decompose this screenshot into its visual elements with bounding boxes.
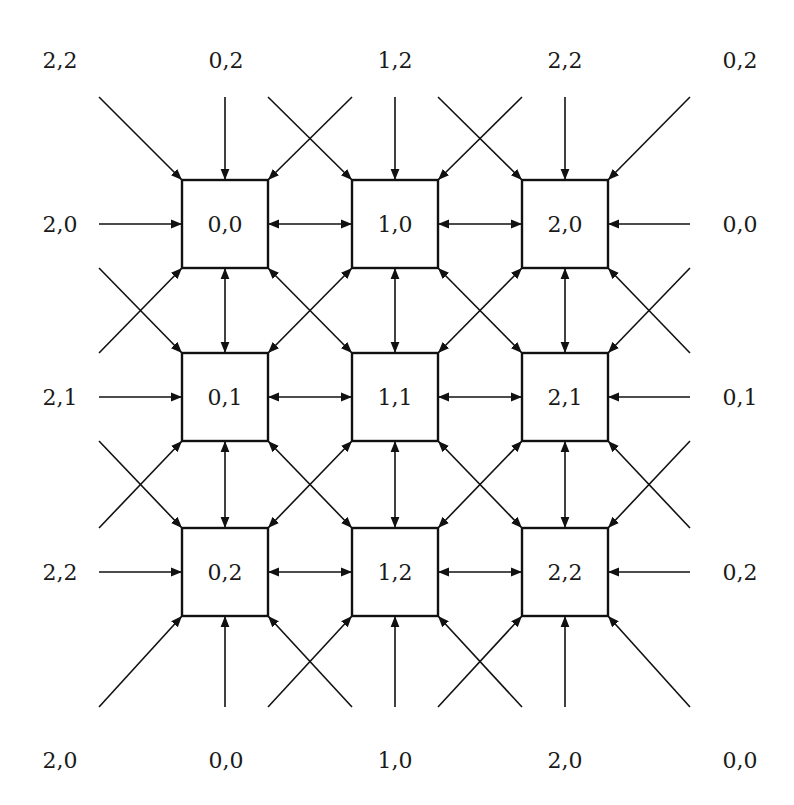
node-1-1: 1,1 [352,353,438,441]
bottom-diagonal-wrap-arrow [608,616,690,707]
node-label: 2,2 [548,560,583,585]
node-0-0: 0,0 [182,180,268,268]
node-0-2: 0,2 [182,528,268,616]
bottom-boundary-label: 2,0 [43,748,78,773]
node-label: 1,2 [378,560,413,585]
top-boundary-label: 0,2 [723,48,758,73]
bottom-boundary-label: 0,0 [209,748,244,773]
bottom-boundary-label: 1,0 [378,748,413,773]
node-label: 0,0 [208,212,243,237]
top-boundary-label: 2,2 [43,48,78,73]
top-diagonal-wrap-arrow [99,97,182,180]
node-label: 2,0 [548,212,583,237]
bottom-boundary-label: 0,0 [723,748,758,773]
node-label: 2,1 [548,385,583,410]
top-boundary-label: 0,2 [209,48,244,73]
node-label: 0,2 [208,560,243,585]
left-boundary-label: 2,0 [43,212,78,237]
top-diagonal-wrap-arrow [608,97,690,180]
node-1-2: 1,2 [352,528,438,616]
top-boundary-label: 1,2 [378,48,413,73]
node-2-2: 2,2 [522,528,608,616]
node-1-0: 1,0 [352,180,438,268]
node-0-1: 0,1 [182,353,268,441]
node-label: 0,1 [208,385,243,410]
node-label: 1,0 [378,212,413,237]
torus-grid-diagram: 0,01,02,00,11,12,10,21,22,2 2,20,21,22,2… [0,0,794,805]
top-boundary-label: 2,2 [548,48,583,73]
right-boundary-label: 0,1 [723,385,758,410]
left-boundary-label: 2,1 [43,385,78,410]
right-boundary-label: 0,0 [723,212,758,237]
nodes-layer: 0,01,02,00,11,12,10,21,22,2 [182,180,608,616]
node-2-0: 2,0 [522,180,608,268]
bottom-boundary-label: 2,0 [548,748,583,773]
left-boundary-label: 2,2 [43,560,78,585]
right-boundary-label: 0,2 [723,560,758,585]
node-2-1: 2,1 [522,353,608,441]
bottom-diagonal-wrap-arrow [99,616,182,707]
node-label: 1,1 [378,385,413,410]
